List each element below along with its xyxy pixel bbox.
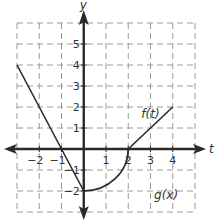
function-label: g(x) bbox=[154, 188, 178, 202]
x-tick-label: 1 bbox=[103, 154, 110, 167]
y-tick-label: 2 bbox=[73, 101, 80, 114]
y-tick-label: 1 bbox=[73, 122, 80, 135]
y-tick-label: −1 bbox=[64, 164, 80, 177]
function-label: f(t) bbox=[141, 107, 159, 121]
y-tick-label: −2 bbox=[64, 185, 80, 198]
axes: t y bbox=[4, 0, 215, 220]
x-tick-label: 4 bbox=[169, 154, 176, 167]
y-tick-label: 3 bbox=[73, 80, 80, 93]
y-tick-label: 5 bbox=[73, 38, 80, 51]
grid bbox=[17, 23, 195, 212]
x-axis-label: t bbox=[209, 142, 215, 156]
x-tick-label: −2 bbox=[27, 154, 43, 167]
y-tick-label: 4 bbox=[73, 59, 80, 72]
y-axis-label: y bbox=[79, 0, 88, 12]
x-tick-label: 3 bbox=[147, 154, 154, 167]
function-graph: t y −2−11234−2−112345 f(t)g(x) bbox=[0, 0, 216, 220]
